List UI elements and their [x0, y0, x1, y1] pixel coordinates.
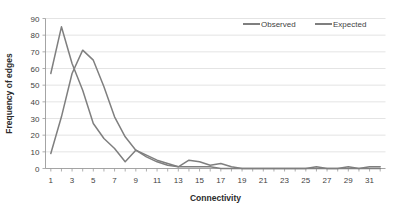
- x-tick-label: 23: [280, 176, 289, 185]
- y-tick-label: 20: [31, 131, 40, 140]
- legend: ObservedExpected: [243, 20, 366, 29]
- line-chart: 0102030405060708090 13579111315171921232…: [0, 0, 396, 213]
- legend-label-expected: Expected: [333, 20, 366, 29]
- x-axis-title: Connectivity: [190, 193, 241, 203]
- x-tick-label: 27: [323, 176, 332, 185]
- x-tick-label: 1: [49, 176, 54, 185]
- x-tick-label: 13: [174, 176, 183, 185]
- x-tick-label: 29: [344, 176, 353, 185]
- x-tick-label: 11: [153, 176, 162, 185]
- x-tick-label: 7: [112, 176, 117, 185]
- y-axis-title: Frequency of edges: [4, 53, 14, 134]
- series-line-expected: [51, 50, 380, 168]
- y-tick-label: 90: [31, 15, 40, 24]
- y-tick-label: 0: [35, 165, 40, 174]
- x-axis-ticks: 135791113151719212325272931: [49, 169, 381, 185]
- y-tick-label: 50: [31, 81, 40, 90]
- y-tick-label: 40: [31, 98, 40, 107]
- x-tick-label: 5: [91, 176, 96, 185]
- y-tick-label: 10: [31, 148, 40, 157]
- x-tick-label: 19: [238, 176, 247, 185]
- x-tick-label: 9: [134, 176, 139, 185]
- x-tick-label: 25: [301, 176, 310, 185]
- y-tick-label: 80: [31, 31, 40, 40]
- chart-container: 0102030405060708090 13579111315171921232…: [0, 0, 396, 213]
- y-tick-label: 70: [31, 48, 40, 57]
- x-tick-label: 3: [70, 176, 75, 185]
- gridlines: [46, 19, 386, 152]
- x-tick-label: 21: [259, 176, 268, 185]
- series-lines: [51, 27, 380, 169]
- x-tick-label: 31: [365, 176, 374, 185]
- y-tick-label: 30: [31, 115, 40, 124]
- legend-label-observed: Observed: [261, 20, 296, 29]
- y-tick-label: 60: [31, 65, 40, 74]
- x-tick-label: 17: [216, 176, 225, 185]
- y-axis-ticks: 0102030405060708090: [31, 15, 46, 174]
- series-line-observed: [51, 27, 380, 169]
- x-tick-label: 15: [195, 176, 204, 185]
